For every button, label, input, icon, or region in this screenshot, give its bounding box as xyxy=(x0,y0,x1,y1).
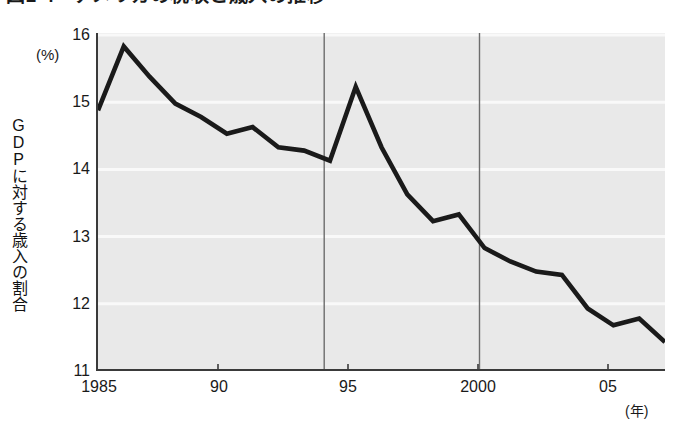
x-tick-label-1995: 95 xyxy=(339,378,357,396)
x-tick-label-2005: 05 xyxy=(599,378,617,396)
x-axis-tick-labels: 1985 90 95 2000 05 xyxy=(0,0,681,430)
x-tick-label-1985: 1985 xyxy=(81,378,117,396)
chart-figure: 図1-4 アメリカの税収と歳入の推移 (%) GDPに対する歳入の割合 16 1… xyxy=(0,0,681,430)
x-axis-unit-label: (年) xyxy=(625,400,648,420)
x-tick-label-2000: 2000 xyxy=(460,378,496,396)
x-tick-label-1990: 90 xyxy=(210,378,228,396)
